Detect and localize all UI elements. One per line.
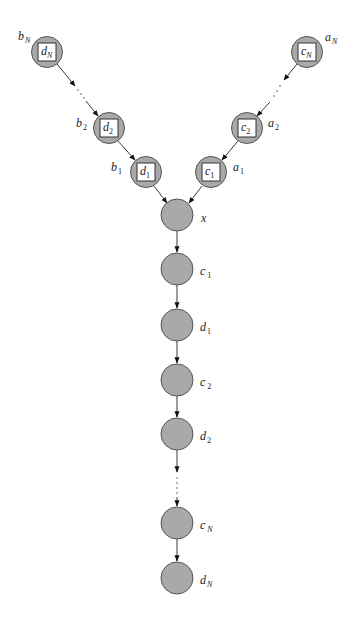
node-circle [161, 418, 193, 450]
node-a1: c1 a1 [196, 157, 245, 188]
outer-label: b2 [76, 116, 87, 132]
edge-a2-a1 [222, 141, 238, 160]
ellipsis-vertical [176, 477, 177, 493]
node-label: c2 [200, 375, 211, 391]
node-b1: d1 b1 [111, 157, 162, 188]
node-circle [161, 507, 193, 539]
node-cN: cN [161, 507, 213, 539]
outer-label: bN [18, 29, 31, 45]
edge-dots-a2 [257, 102, 270, 116]
ellipsis-left [77, 89, 84, 98]
edge-b2-b1 [118, 141, 135, 160]
outer-label: aN [325, 30, 338, 46]
node-c2: c2 [161, 364, 211, 396]
outer-label: b1 [111, 160, 122, 176]
node-label: c1 [200, 264, 211, 280]
node-d1: d1 [161, 309, 211, 341]
node-circle [161, 199, 193, 231]
edge-dots-b2 [86, 101, 98, 116]
node-circle [161, 562, 193, 594]
node-label: dN [200, 573, 213, 589]
node-circle [161, 364, 193, 396]
ellipsis-right [273, 85, 280, 96]
edge-bN-dots [57, 64, 75, 86]
diagram-canvas: dN bN d2 b2 d1 b1 cN aN c2 a2 c1 a1 x [0, 0, 359, 617]
node-aN: cN aN [292, 30, 339, 68]
node-d2: d2 [161, 418, 211, 450]
node-c1: c1 [161, 253, 211, 285]
node-label: d2 [200, 429, 211, 445]
edge-a1-x [189, 186, 202, 203]
edge-aN-dots [284, 64, 297, 80]
node-a2: c2 a2 [232, 113, 280, 144]
node-circle [161, 253, 193, 285]
node-label: cN [200, 518, 213, 534]
node-x: x [161, 199, 207, 231]
node-b2: d2 b2 [76, 113, 125, 144]
outer-label: a1 [233, 160, 244, 176]
edge-b1-x [154, 186, 167, 203]
node-circle [161, 309, 193, 341]
outer-label: a2 [268, 116, 279, 132]
node-label: x [200, 211, 207, 225]
node-bN: dN bN [18, 29, 63, 68]
node-dN: dN [161, 562, 213, 594]
node-label: d1 [200, 320, 211, 336]
